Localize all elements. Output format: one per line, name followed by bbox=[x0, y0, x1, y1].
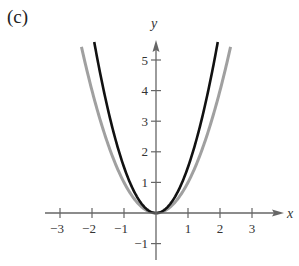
x-tick-label: 1 bbox=[185, 221, 192, 236]
y-tick-label: 5 bbox=[142, 53, 149, 68]
y-tick-label: 3 bbox=[142, 114, 149, 129]
y-tick-label: 1 bbox=[142, 175, 149, 190]
y-tick-label: 2 bbox=[142, 144, 149, 159]
x-tick-label: −3 bbox=[50, 221, 64, 236]
y-tick-label: 4 bbox=[142, 83, 149, 98]
y-axis-label: y bbox=[149, 16, 158, 31]
x-tick-label: 3 bbox=[249, 221, 256, 236]
x-tick-label: −1 bbox=[114, 221, 128, 236]
x-tick-label: 2 bbox=[217, 221, 224, 236]
y-tick-label: −1 bbox=[134, 236, 148, 251]
x-tick-label: −2 bbox=[82, 221, 96, 236]
x-axis-label: x bbox=[286, 206, 294, 221]
parabola-chart: −3−2−1123−112345xy bbox=[0, 0, 299, 266]
